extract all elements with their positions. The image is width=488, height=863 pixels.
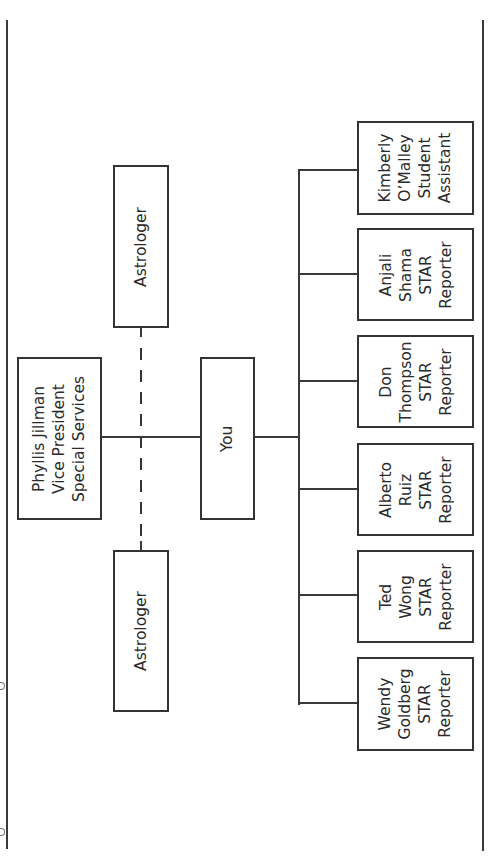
- astrologer-box-bottom: Astrologer: [113, 550, 169, 712]
- branch-connector: [298, 273, 358, 275]
- report-box-ted: Ted Wong STAR Reporter: [357, 550, 474, 643]
- report-role: STAR: [415, 341, 435, 422]
- report-first-name: Ted: [375, 563, 395, 630]
- dotted-connector-dash: [140, 502, 142, 514]
- report-role: Reporter: [436, 669, 456, 740]
- report-role: Reporter: [435, 456, 455, 523]
- report-role: Assistant: [436, 133, 456, 204]
- dotted-connector-dash: [140, 370, 142, 382]
- report-role: STAR: [415, 563, 435, 630]
- you-label: You: [218, 425, 238, 452]
- report-last-name: Ruiz: [395, 456, 415, 523]
- dotted-connector-dash: [140, 458, 142, 470]
- report-first-name: Alberto: [375, 456, 395, 523]
- vp-to-you-connector: [101, 436, 201, 438]
- report-label: Ted Wong STAR Reporter: [375, 563, 455, 630]
- branch-connector: [298, 488, 358, 490]
- report-role: STAR: [415, 456, 435, 523]
- report-last-name: Shama: [395, 241, 415, 308]
- report-box-wendy: Wendy Goldberg STAR Reporter: [357, 657, 474, 751]
- report-box-don: Don Thompson STAR Reporter: [357, 335, 474, 428]
- report-label: Anjali Shama STAR Reporter: [375, 241, 455, 308]
- report-first-name: Kimberly: [376, 133, 396, 204]
- dotted-connector-stub: [140, 327, 142, 337]
- report-role: Student: [416, 133, 436, 204]
- you-box: You: [200, 357, 255, 520]
- branch-connector: [298, 380, 358, 382]
- clipped-glyph-mark: [0, 682, 5, 690]
- report-box-kimberly: Kimberly O’Malley Student Assistant: [357, 121, 474, 215]
- vp-title: Vice President: [50, 375, 70, 501]
- report-label: Alberto Ruiz STAR Reporter: [375, 456, 455, 523]
- astrologer-box-top: Astrologer: [113, 165, 169, 328]
- report-label: Kimberly O’Malley Student Assistant: [376, 133, 456, 204]
- reports-bus-line: [298, 169, 300, 705]
- report-last-name: Thompson: [395, 341, 415, 422]
- dotted-connector-dash: [140, 524, 142, 536]
- branch-connector: [298, 702, 358, 704]
- report-first-name: Don: [375, 341, 395, 422]
- report-first-name: Wendy: [376, 669, 396, 740]
- clipped-glyph-mark: [0, 828, 5, 836]
- astrologer-label: Astrologer: [131, 207, 151, 287]
- dotted-connector-dash: [140, 414, 142, 426]
- report-role: Reporter: [435, 563, 455, 630]
- report-label: Don Thompson STAR Reporter: [375, 341, 455, 422]
- report-last-name: Goldberg: [396, 669, 416, 740]
- branch-connector: [298, 594, 358, 596]
- dotted-connector-dash: [140, 392, 142, 404]
- vp-name: Phyllis Jillman: [30, 375, 50, 501]
- report-box-anjali: Anjali Shama STAR Reporter: [357, 228, 474, 321]
- report-first-name: Anjali: [375, 241, 395, 308]
- vp-box: Phyllis Jillman Vice President Special S…: [17, 357, 102, 520]
- report-role: Reporter: [435, 341, 455, 422]
- page-border-left: [6, 20, 8, 849]
- report-last-name: O’Malley: [396, 133, 416, 204]
- you-to-bus-connector: [254, 436, 300, 438]
- report-role: Reporter: [435, 241, 455, 308]
- report-box-alberto: Alberto Ruiz STAR Reporter: [357, 443, 474, 536]
- astrologer-label: Astrologer: [131, 591, 151, 671]
- report-role: STAR: [415, 241, 435, 308]
- report-last-name: Wong: [395, 563, 415, 630]
- report-role: STAR: [416, 669, 436, 740]
- report-label: Wendy Goldberg STAR Reporter: [376, 669, 456, 740]
- dotted-connector-dash: [140, 348, 142, 360]
- branch-connector: [298, 169, 358, 171]
- page-border-right: [482, 20, 484, 851]
- vp-department: Special Services: [70, 375, 90, 501]
- dotted-connector-dash: [140, 480, 142, 492]
- vp-label: Phyllis Jillman Vice President Special S…: [30, 375, 90, 501]
